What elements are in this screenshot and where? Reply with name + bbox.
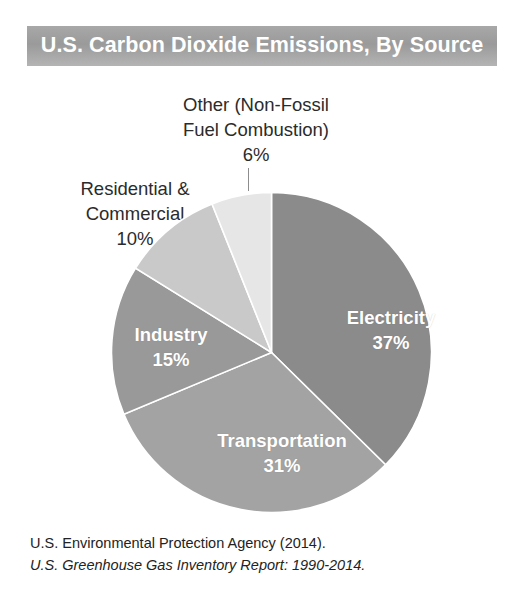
source-line-2: U.S. Greenhouse Gas Inventory Report: 19… (30, 555, 365, 576)
slice-value-industry: 15% (108, 347, 234, 372)
slice-label-electricity: Electricity 37% (318, 305, 464, 355)
slice-label-industry-name: Industry (108, 322, 234, 347)
leader-line-other (248, 168, 249, 191)
slice-label-other-line1: Other (Non-Fossil (136, 92, 376, 117)
slice-label-transportation-name: Transportation (188, 428, 376, 453)
slice-label-industry: Industry 15% (108, 322, 234, 372)
slice-label-other-line2: Fuel Combustion) (136, 117, 376, 142)
slice-value-transportation: 31% (188, 453, 376, 478)
slice-label-other: Other (Non-Fossil Fuel Combustion) 6% (136, 92, 376, 167)
slice-value-other: 6% (136, 142, 376, 167)
page-title: U.S. Carbon Dioxide Emissions, By Source (41, 35, 483, 57)
slice-label-transportation: Transportation 31% (188, 428, 376, 478)
slice-label-electricity-name: Electricity (318, 305, 464, 330)
slice-value-electricity: 37% (318, 330, 464, 355)
source-line-1: U.S. Environmental Protection Agency (20… (30, 533, 326, 554)
chart-figure: U.S. Carbon Dioxide Emissions, By Source… (0, 0, 524, 595)
chart-title-banner: U.S. Carbon Dioxide Emissions, By Source (27, 26, 497, 66)
